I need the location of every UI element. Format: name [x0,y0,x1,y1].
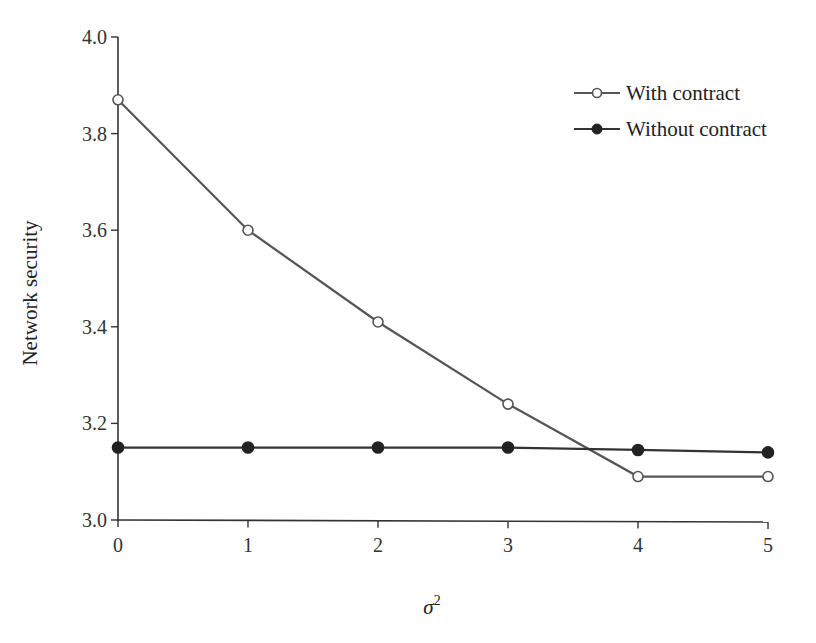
legend-item-with-contract: With contract [574,81,740,105]
open-circle-marker-icon [503,399,513,409]
series-without-contract [113,442,774,458]
series-layer [113,95,774,482]
open-circle-marker-icon [113,95,123,105]
open-circle-marker-icon [373,317,383,327]
open-circle-marker-icon [243,225,253,235]
x-tick-label: 0 [113,534,123,556]
filled-circle-marker-icon [113,442,124,453]
series-with-contract [113,95,773,482]
filled-circle-marker-icon [763,447,774,458]
filled-circle-marker-icon [243,442,254,453]
y-tick-label: 3.8 [82,123,107,145]
legend-label: With contract [626,81,740,105]
y-tick-label: 3.4 [82,316,107,338]
line-chart: 3.03.23.43.63.84.0 012345 Network securi… [0,0,816,643]
y-tick-label: 3.6 [82,219,107,241]
x-tick-label: 4 [633,534,643,556]
x-tick-label: 2 [373,534,383,556]
x-tick-label: 5 [763,534,773,556]
open-circle-marker-icon [633,472,643,482]
y-tick-label: 3.2 [82,412,107,434]
x-axis: 012345 [113,520,773,556]
open-circle-marker-icon [763,472,773,482]
legend: With contract Without contract [574,81,767,141]
x-axis-title: σ2 [423,593,440,619]
y-tick-label: 4.0 [82,26,107,48]
x-tick-label: 3 [503,534,513,556]
filled-circle-marker-icon [373,442,384,453]
filled-circle-marker-icon [633,444,644,455]
legend-item-without-contract: Without contract [574,117,767,141]
filled-circle-marker-icon [592,124,602,134]
y-axis-title: Network security [18,220,42,366]
x-tick-label: 1 [243,534,253,556]
y-tick-label: 3.0 [82,509,107,531]
legend-label: Without contract [626,117,767,141]
open-circle-marker-icon [593,89,602,98]
filled-circle-marker-icon [503,442,514,453]
